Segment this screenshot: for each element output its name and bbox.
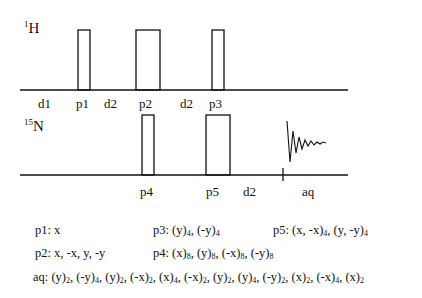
phase-cycle-p2: p2: x, -x, y, -y: [35, 246, 105, 260]
phase-cycle-p1: p1: x: [35, 223, 60, 237]
phase-cycle-p4: p4: (x)8, (y)8, (-x)8, (-y)8: [153, 246, 274, 264]
pulse-p4: [142, 115, 154, 175]
h-channel-label: 1H: [24, 17, 39, 36]
phase-cycle-p3: p3: (y)4, (-y)4: [153, 223, 220, 241]
label-p4: p4: [140, 185, 153, 198]
label-p5: p5: [206, 185, 219, 198]
pulse-p2: [136, 30, 160, 90]
label-aq: aq: [302, 185, 314, 198]
label-d2-n: d2: [243, 185, 256, 198]
phase-cycle-p5: p5: (x, -x)4, (y, -y)4: [273, 223, 368, 241]
label-d1: d1: [38, 97, 51, 110]
label-p1: p1: [76, 97, 89, 110]
label-d2-first: d2: [104, 97, 117, 110]
pulse-p3: [212, 30, 224, 90]
phase-cycle-aq: aq: (y)2, (-y)4, (y)2, (-x)2, (x)4, (-x)…: [33, 270, 364, 288]
n-channel-label: 15N: [24, 115, 44, 134]
pulse-p1: [78, 30, 90, 90]
pulse-p5: [206, 115, 230, 175]
label-p2: p2: [139, 97, 152, 110]
label-d2-second: d2: [180, 97, 193, 110]
fid-icon: [287, 121, 326, 162]
label-p3: p3: [209, 97, 222, 110]
